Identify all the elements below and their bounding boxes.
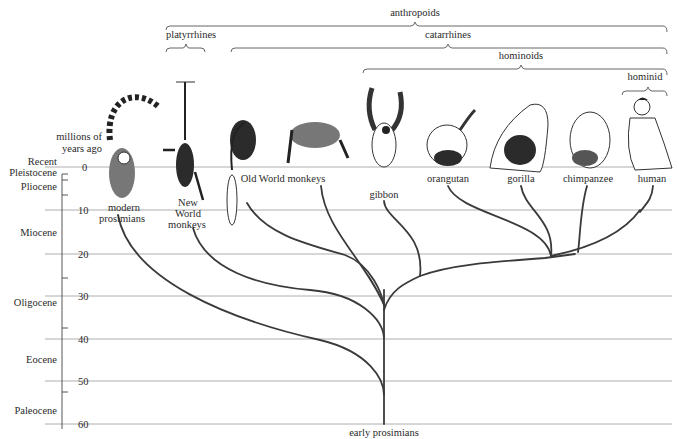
branch-chimpanzee <box>578 186 587 252</box>
label-modern-prosimians-2: prosimians <box>99 213 145 224</box>
macaque-illustration <box>288 122 348 163</box>
axis-unit-label-line1: millions of <box>56 131 102 142</box>
label-human: human <box>638 173 667 184</box>
epoch-recent: Recent <box>28 156 57 167</box>
branch-human-line <box>551 210 640 256</box>
branch-gibbon <box>384 201 420 276</box>
epoch-pliocene: Pliocene <box>21 181 57 192</box>
hominid-label: hominid <box>627 71 663 82</box>
branch-great-apes-stem <box>420 254 575 276</box>
gorilla-illustration <box>490 104 548 172</box>
epoch-oligocene: Oligocene <box>14 297 57 308</box>
group-braces: anthropoids platyrrhines catarrhines hom… <box>166 7 667 96</box>
epoch-paleocene: Paleocene <box>14 405 57 416</box>
hominoids-label: hominoids <box>499 50 543 61</box>
epoch-eocene: Eocene <box>26 354 57 365</box>
tick-60: 60 <box>78 419 89 430</box>
catarrhines-brace <box>231 44 667 54</box>
branch-hominoid-stem <box>384 276 420 310</box>
label-gibbon: gibbon <box>369 189 399 200</box>
epoch-bracket <box>62 174 68 429</box>
tick-0: 0 <box>82 162 87 173</box>
label-orangutan: orangutan <box>427 173 470 184</box>
epoch-labels: Recent Pleistocene Pliocene Miocene Olig… <box>9 156 57 416</box>
epoch-axis-line <box>62 174 68 429</box>
label-early-prosimians: early prosimians <box>349 427 419 438</box>
tick-40: 40 <box>78 334 89 345</box>
gibbon-illustration <box>369 88 401 167</box>
human-illustration <box>628 98 672 171</box>
catarrhines-label: catarrhines <box>425 29 471 40</box>
label-gorilla: gorilla <box>507 173 535 184</box>
tick-50: 50 <box>78 376 89 387</box>
time-tick-labels: 0 10 20 30 40 50 60 <box>78 162 89 430</box>
label-new-world-1: New <box>178 197 198 208</box>
hominid-brace <box>622 87 667 96</box>
label-new-world-3: monkeys <box>168 219 206 230</box>
orangutan-illustration <box>427 110 475 166</box>
label-old-world-monkeys: Old World monkeys <box>241 173 326 184</box>
branch-orangutan <box>448 186 551 256</box>
chimpanzee-illustration <box>570 112 610 168</box>
anthropoids-label: anthropoids <box>390 7 440 18</box>
hominoids-brace <box>363 65 667 75</box>
label-new-world-2: World <box>175 208 202 219</box>
tick-20: 20 <box>78 249 89 260</box>
label-chimpanzee: chimpanzee <box>563 173 613 184</box>
epoch-pleistocene: Pleistocene <box>9 167 57 178</box>
label-modern-prosimians-1: modern <box>108 202 141 213</box>
anthropoids-brace <box>166 22 667 32</box>
tick-10: 10 <box>78 205 89 216</box>
primate-phylogeny-diagram: 0 10 20 30 40 50 60 millions of years ag… <box>0 0 679 439</box>
spider-monkey-illustration <box>163 82 203 200</box>
platyrrhines-brace <box>166 44 205 52</box>
branch-old-world-monkeys-2 <box>321 186 384 305</box>
branch-new-world-monkeys <box>193 228 384 338</box>
tick-30: 30 <box>78 291 89 302</box>
platyrrhines-label: platyrrhines <box>166 29 216 40</box>
epoch-miocene: Miocene <box>20 227 57 238</box>
branch-human <box>640 186 653 212</box>
axis-unit-label-line2: years ago <box>62 143 102 154</box>
lemur-illustration <box>109 97 160 198</box>
